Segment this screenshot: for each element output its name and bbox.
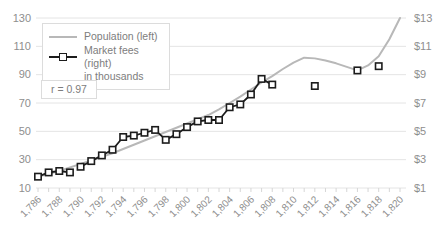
correlation-text: r = 0.97 (51, 83, 87, 95)
svg-text:1,800: 1,800 (167, 193, 193, 219)
dual-axis-line-chart: 130$13110$1190$970$750$530$310$11,7861,7… (0, 0, 438, 236)
svg-text:1,802: 1,802 (188, 193, 214, 219)
market-fees-line-swatch (49, 52, 79, 62)
svg-text:1,810: 1,810 (273, 193, 299, 219)
svg-text:1,814: 1,814 (316, 193, 342, 219)
svg-text:130: 130 (13, 12, 31, 24)
correlation-annotation: r = 0.97 (41, 80, 97, 99)
svg-text:1,794: 1,794 (103, 193, 129, 219)
svg-text:1,816: 1,816 (337, 193, 363, 219)
svg-text:1,788: 1,788 (39, 193, 65, 219)
svg-text:$1: $1 (414, 182, 426, 194)
square-marker-icon (59, 53, 67, 61)
svg-text:$11: $11 (414, 40, 432, 52)
svg-text:1,786: 1,786 (18, 193, 44, 219)
legend-population-label: Population (left) (84, 30, 158, 43)
svg-text:70: 70 (19, 97, 31, 109)
svg-text:30: 30 (19, 153, 31, 165)
svg-text:1,792: 1,792 (82, 193, 108, 219)
svg-text:1,812: 1,812 (295, 193, 321, 219)
svg-text:1,804: 1,804 (210, 193, 236, 219)
svg-text:10: 10 (19, 182, 31, 194)
legend-row-population: Population (left) (49, 30, 163, 43)
population-line-swatch (49, 32, 79, 42)
svg-text:110: 110 (13, 40, 31, 52)
svg-text:1,818: 1,818 (359, 193, 385, 219)
svg-text:1,806: 1,806 (231, 193, 257, 219)
legend-market-fees-label: Market fees (right) (84, 44, 163, 70)
svg-text:$13: $13 (414, 12, 432, 24)
svg-text:1,790: 1,790 (61, 193, 87, 219)
svg-text:90: 90 (19, 68, 31, 80)
svg-text:1,796: 1,796 (124, 193, 150, 219)
svg-text:1,798: 1,798 (146, 193, 172, 219)
svg-text:$9: $9 (414, 68, 426, 80)
svg-text:$5: $5 (414, 125, 426, 137)
svg-text:1,808: 1,808 (252, 193, 278, 219)
legend-row-market-fees: Market fees (right) (49, 44, 163, 70)
svg-text:$3: $3 (414, 153, 426, 165)
svg-text:50: 50 (19, 125, 31, 137)
svg-text:$7: $7 (414, 97, 426, 109)
svg-text:1,820: 1,820 (380, 193, 406, 219)
